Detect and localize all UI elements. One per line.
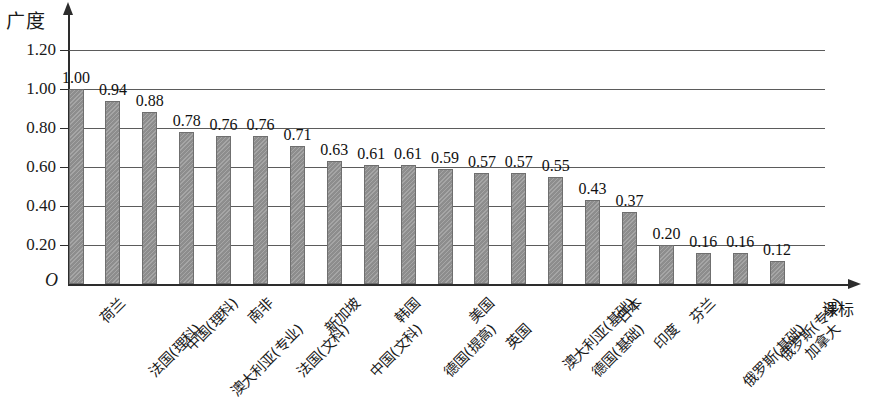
bar-value-label: 0.71 bbox=[283, 126, 311, 144]
bar-value-label: 0.78 bbox=[173, 112, 201, 130]
bar-value-label: 0.57 bbox=[505, 153, 533, 171]
bar-value-label: 0.12 bbox=[763, 241, 791, 259]
y-axis-tick-label: 1.20 bbox=[0, 40, 56, 60]
bar-value-label: 1.00 bbox=[62, 69, 90, 87]
bar bbox=[364, 165, 379, 284]
x-axis-category-label: 南非 bbox=[242, 292, 277, 327]
x-axis-category-label: 澳大利亚(专业) bbox=[225, 318, 307, 400]
bar bbox=[733, 253, 748, 284]
y-axis-tick-label: 1.00 bbox=[0, 79, 56, 99]
bar bbox=[585, 200, 600, 284]
origin-label: O bbox=[45, 270, 58, 291]
x-axis-category-label: 英国 bbox=[500, 318, 535, 353]
bar-value-label: 0.59 bbox=[431, 149, 459, 167]
bar-value-label: 0.37 bbox=[616, 192, 644, 210]
x-axis-category-label: 德国(提高) bbox=[438, 318, 500, 380]
gridline bbox=[68, 89, 825, 90]
bar bbox=[659, 245, 674, 284]
bar-chart: 广度 O 0.200.400.600.801.001.20 1.000.940.… bbox=[0, 0, 870, 407]
bar bbox=[179, 132, 194, 284]
bar-value-label: 0.63 bbox=[320, 141, 348, 159]
bar bbox=[216, 136, 231, 284]
y-axis-tick-mark bbox=[60, 50, 69, 51]
x-axis-category-label: 印度 bbox=[648, 318, 683, 353]
bar bbox=[474, 173, 489, 284]
bar bbox=[438, 169, 453, 284]
bar-value-label: 0.43 bbox=[579, 180, 607, 198]
bar-value-label: 0.16 bbox=[689, 233, 717, 251]
gridline bbox=[68, 50, 825, 51]
bar bbox=[253, 136, 268, 284]
bar-value-label: 0.20 bbox=[652, 225, 680, 243]
x-axis-category-label: 荷兰 bbox=[94, 292, 129, 327]
bar-value-label: 0.16 bbox=[726, 233, 754, 251]
bar bbox=[142, 112, 157, 284]
bar bbox=[105, 101, 120, 284]
bar bbox=[622, 212, 637, 284]
x-axis-arrow-icon bbox=[848, 279, 861, 289]
bar bbox=[511, 173, 526, 284]
bar-value-label: 0.76 bbox=[210, 116, 238, 134]
x-axis-category-label: 韩国 bbox=[389, 292, 424, 327]
bar bbox=[548, 177, 563, 284]
x-axis-category-label: 芬兰 bbox=[685, 292, 720, 327]
y-axis-tick-label: 0.80 bbox=[0, 118, 56, 138]
y-axis-tick-label: 0.40 bbox=[0, 196, 56, 216]
bar bbox=[770, 261, 785, 284]
x-axis-category-label: 美国 bbox=[463, 292, 498, 327]
bar bbox=[327, 161, 342, 284]
y-axis-arrow-icon bbox=[63, 2, 73, 15]
bar bbox=[290, 146, 305, 284]
bar-value-label: 0.57 bbox=[468, 153, 496, 171]
x-axis-category-label: 中国(文科) bbox=[364, 318, 426, 380]
x-axis-title: 课标 bbox=[822, 296, 854, 320]
bar-value-label: 0.94 bbox=[99, 81, 127, 99]
bar-value-label: 0.55 bbox=[542, 157, 570, 175]
bar bbox=[69, 89, 84, 284]
y-axis-tick-label: 0.20 bbox=[0, 235, 56, 255]
x-axis-line bbox=[68, 284, 850, 286]
bar bbox=[696, 253, 711, 284]
y-axis-title: 广度 bbox=[6, 6, 46, 33]
bar bbox=[401, 165, 416, 284]
bar-value-label: 0.61 bbox=[357, 145, 385, 163]
bar-value-label: 0.61 bbox=[394, 145, 422, 163]
y-axis-tick-label: 0.60 bbox=[0, 157, 56, 177]
bar-value-label: 0.88 bbox=[136, 92, 164, 110]
bar-value-label: 0.76 bbox=[247, 116, 275, 134]
